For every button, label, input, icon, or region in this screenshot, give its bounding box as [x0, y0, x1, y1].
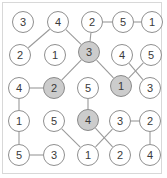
graph-node-r1c3[interactable]: 2 [81, 11, 103, 33]
graph-node-r2c2[interactable]: 1 [44, 44, 66, 66]
graph-node-label: 2 [147, 115, 153, 126]
graph-node-r2c3[interactable]: 3 [78, 41, 100, 63]
graph-node-r3c5[interactable]: 3 [139, 77, 161, 99]
graph-node-label: 2 [17, 49, 23, 60]
graph-node-r5c3[interactable]: 1 [77, 144, 99, 166]
graph-node-r2c1[interactable]: 2 [9, 44, 31, 66]
graph-node-label: 5 [85, 82, 91, 93]
graph-node-r2c4[interactable]: 4 [111, 44, 133, 66]
grid-graph-figure: 3425121345425131543253124 [0, 0, 167, 178]
graph-node-label: 3 [51, 149, 57, 160]
graph-node-r5c1[interactable]: 5 [8, 144, 30, 166]
graph-node-label: 5 [148, 49, 154, 60]
graph-node-label: 1 [149, 16, 155, 27]
graph-node-r5c4[interactable]: 2 [109, 144, 131, 166]
graph-node-label: 5 [16, 149, 22, 160]
graph-node-label: 1 [52, 49, 58, 60]
graph-node-r1c1[interactable]: 3 [12, 11, 34, 33]
graph-node-r3c2[interactable]: 2 [43, 77, 65, 99]
graph-node-label: 4 [147, 149, 153, 160]
graph-node-r3c1[interactable]: 4 [8, 77, 30, 99]
graph-node-r1c4[interactable]: 5 [112, 11, 134, 33]
graph-node-r1c5[interactable]: 1 [141, 11, 163, 33]
graph-node-label: 3 [147, 82, 153, 93]
graph-node-r3c4[interactable]: 1 [110, 75, 132, 97]
graph-node-label: 1 [118, 80, 124, 91]
graph-node-label: 3 [20, 16, 26, 27]
graph-node-label: 5 [120, 16, 126, 27]
graph-node-label: 2 [51, 82, 57, 93]
graph-node-r1c2[interactable]: 4 [47, 11, 69, 33]
graph-node-label: 1 [16, 115, 22, 126]
graph-node-r4c4[interactable]: 3 [109, 110, 131, 132]
graph-node-label: 2 [89, 16, 95, 27]
graph-node-r2c5[interactable]: 5 [140, 44, 162, 66]
graph-node-r4c1[interactable]: 1 [8, 110, 30, 132]
graph-node-r4c3[interactable]: 4 [77, 109, 99, 131]
node-layer: 3425121345425131543253124 [0, 0, 167, 178]
graph-node-r5c5[interactable]: 4 [139, 144, 161, 166]
graph-node-r3c3[interactable]: 5 [77, 77, 99, 99]
graph-node-label: 3 [117, 115, 123, 126]
graph-node-label: 2 [117, 149, 123, 160]
graph-node-r5c2[interactable]: 3 [43, 144, 65, 166]
graph-node-label: 4 [85, 114, 91, 125]
graph-node-r4c5[interactable]: 2 [139, 110, 161, 132]
graph-node-label: 3 [86, 46, 92, 57]
graph-node-label: 4 [16, 82, 22, 93]
graph-node-r4c2[interactable]: 5 [43, 110, 65, 132]
graph-node-label: 5 [51, 115, 57, 126]
graph-node-label: 1 [85, 149, 91, 160]
graph-node-label: 4 [55, 16, 61, 27]
graph-node-label: 4 [119, 49, 125, 60]
